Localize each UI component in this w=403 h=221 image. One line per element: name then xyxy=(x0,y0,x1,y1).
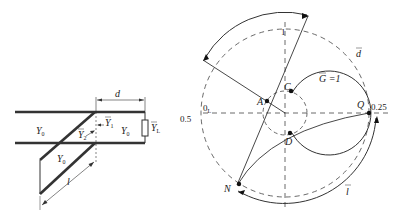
diagram-stage: d Y0 Y0 Y0 Y1 Y2 YL l xyxy=(0,0,403,221)
quarter-label: 0.25 xyxy=(371,102,387,112)
y1-arrow-head xyxy=(97,124,101,127)
y1-label: Y1 xyxy=(105,117,114,129)
d-arrow-left xyxy=(97,99,102,102)
point-d xyxy=(288,131,292,135)
one-label: 1 xyxy=(281,27,286,37)
d-rotation-arc xyxy=(205,12,307,58)
arc-n-d-q xyxy=(238,113,369,184)
load-resistor xyxy=(142,120,148,136)
d-label: d xyxy=(115,88,121,99)
y2-label: Y2 xyxy=(78,129,87,141)
point-n xyxy=(237,182,241,186)
l-arc-arrowhead-top xyxy=(374,116,379,123)
label-d: D xyxy=(284,136,293,147)
g-circle-label: G =1 xyxy=(319,73,340,84)
l-rotation-arc xyxy=(238,118,376,203)
zero-l-label: 0L xyxy=(203,103,212,114)
half-label: 0.5 xyxy=(180,114,192,124)
label-c: C xyxy=(284,81,291,92)
transmission-line-circuit: d Y0 Y0 Y0 Y1 Y2 YL l xyxy=(15,88,161,210)
y0-left-label: Y0 xyxy=(36,125,45,137)
diagram-svg: d Y0 Y0 Y0 Y1 Y2 YL l xyxy=(0,0,403,221)
smith-chart: A C D Q N G =1 d l 1 0L 0.5 0.25 xyxy=(180,12,392,210)
d-arc-arrowhead xyxy=(302,13,309,19)
d-bar-label: d xyxy=(356,48,362,59)
d-arrow-right xyxy=(139,99,144,102)
y0-stub-label: Y0 xyxy=(57,153,66,165)
line-through-a xyxy=(203,60,285,113)
d-arc-tail xyxy=(203,54,209,61)
y0-right-label: Y0 xyxy=(121,125,130,137)
line-through-c-n xyxy=(237,16,308,185)
label-q: Q xyxy=(357,99,365,110)
y2-arrow-head xyxy=(90,131,95,135)
l-bar-label: l xyxy=(346,186,349,197)
label-n: N xyxy=(223,183,232,194)
l-label: l xyxy=(67,176,70,187)
stub-line-upper xyxy=(40,112,95,160)
label-a: A xyxy=(256,96,264,107)
yl-label: YL xyxy=(151,122,161,134)
point-a xyxy=(265,99,269,103)
